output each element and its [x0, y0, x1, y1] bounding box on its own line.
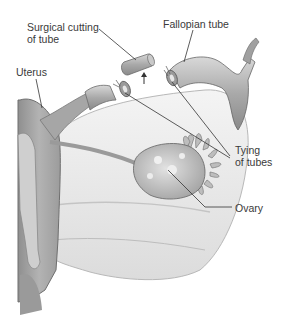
- label-line: Ovary: [235, 202, 263, 214]
- label-line: Tying: [235, 144, 272, 156]
- label-uterus: Uterus: [16, 66, 47, 78]
- label-line: Uterus: [16, 66, 47, 78]
- label-ovary: Ovary: [235, 202, 263, 214]
- label-tying-of-tubes: Tying of tubes: [235, 144, 272, 168]
- tubal-ligation-diagram: Surgical cutting of tube Fallopian tube …: [0, 0, 286, 330]
- label-line: Fallopian tube: [163, 18, 229, 30]
- label-surgical-cutting: Surgical cutting of tube: [27, 21, 99, 45]
- label-line: of tube: [27, 33, 99, 45]
- label-line: of tubes: [235, 156, 272, 168]
- label-fallopian-tube: Fallopian tube: [163, 18, 229, 30]
- cut-tube-segment: [121, 53, 155, 84]
- label-line: Surgical cutting: [27, 21, 99, 33]
